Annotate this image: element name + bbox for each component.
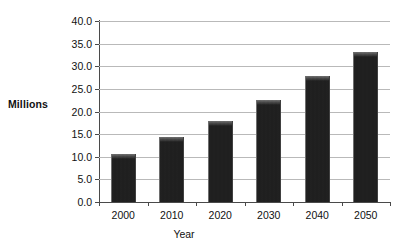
x-tick-mark bbox=[245, 202, 246, 206]
gridline bbox=[99, 66, 390, 67]
x-tick-label-2050: 2050 bbox=[354, 209, 377, 221]
gridline bbox=[99, 134, 390, 135]
y-tick-mark bbox=[95, 179, 99, 180]
x-tick-label-2030: 2030 bbox=[257, 209, 280, 221]
bar-2040 bbox=[305, 76, 330, 202]
x-tick-label-2020: 2020 bbox=[209, 209, 232, 221]
y-tick-mark bbox=[95, 157, 99, 158]
bar-chart-figure: Millions 0.05.010.015.020.025.030.035.04… bbox=[0, 0, 414, 252]
y-tick-label: 30.0 bbox=[72, 60, 92, 72]
x-tick-label-2040: 2040 bbox=[306, 209, 329, 221]
gridline bbox=[99, 44, 390, 45]
x-tick-mark bbox=[99, 202, 100, 206]
y-tick-label: 25.0 bbox=[72, 83, 92, 95]
y-tick-mark bbox=[95, 134, 99, 135]
y-tick-label: 40.0 bbox=[72, 15, 92, 27]
bar-highlight bbox=[354, 52, 377, 57]
y-tick-label: 5.0 bbox=[77, 173, 92, 185]
gridline bbox=[99, 157, 390, 158]
y-tick-mark bbox=[95, 44, 99, 45]
x-tick-mark bbox=[293, 202, 294, 206]
x-tick-label-2010: 2010 bbox=[160, 209, 183, 221]
bar-2050 bbox=[353, 52, 378, 202]
gridline bbox=[99, 179, 390, 180]
y-axis-title: Millions bbox=[8, 98, 80, 110]
bar-highlight bbox=[306, 76, 329, 81]
plot-area: 0.05.010.015.020.025.030.035.040.0 20002… bbox=[99, 21, 390, 202]
bar-highlight bbox=[160, 137, 183, 142]
bar-highlight bbox=[257, 100, 280, 105]
x-axis-title: Year bbox=[0, 228, 414, 240]
y-tick-label: 35.0 bbox=[72, 38, 92, 50]
bar-2000 bbox=[111, 154, 136, 202]
bar-highlight bbox=[209, 121, 232, 126]
gridline bbox=[99, 21, 390, 22]
y-tick-label: 20.0 bbox=[72, 106, 92, 118]
bar-2030 bbox=[256, 100, 281, 202]
y-tick-mark bbox=[95, 112, 99, 113]
x-tick-mark bbox=[196, 202, 197, 206]
gridline bbox=[99, 112, 390, 113]
bar-highlight bbox=[112, 154, 135, 159]
bar-2010 bbox=[159, 137, 184, 202]
y-tick-mark bbox=[95, 21, 99, 22]
x-tick-label-2000: 2000 bbox=[112, 209, 135, 221]
x-tick-mark bbox=[390, 202, 391, 206]
bar-2020 bbox=[208, 121, 233, 202]
x-tick-mark bbox=[148, 202, 149, 206]
y-tick-label: 0.0 bbox=[77, 196, 92, 208]
gridline bbox=[99, 89, 390, 90]
x-tick-mark bbox=[342, 202, 343, 206]
y-tick-label: 15.0 bbox=[72, 128, 92, 140]
y-tick-mark bbox=[95, 66, 99, 67]
y-tick-label: 10.0 bbox=[72, 151, 92, 163]
y-tick-mark bbox=[95, 89, 99, 90]
